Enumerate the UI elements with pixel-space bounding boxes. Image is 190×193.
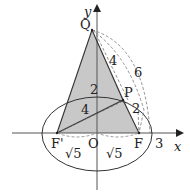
length-radius6-label: 6 (134, 65, 142, 80)
y-axis-arrow-icon (93, 4, 101, 12)
point-q-label: Q (80, 17, 91, 32)
point-fleft (56, 132, 58, 134)
x-axis-label: x (174, 139, 182, 154)
point-q (91, 29, 93, 31)
length-ofleft-label: √5 (65, 146, 82, 161)
length-2-label: 2 (90, 82, 98, 97)
length-ofright-label: √5 (106, 146, 123, 161)
point-fleft-label: F' (51, 136, 64, 151)
origin-label: O (88, 136, 99, 151)
point-p (122, 99, 124, 101)
point-fright-label: F (134, 136, 143, 151)
x-intercept-label: 3 (155, 136, 163, 151)
length-pf-label: 2 (132, 101, 140, 116)
point-fright (138, 132, 140, 134)
length-fleft-p-label: 4 (81, 102, 89, 117)
point-p-label: P (124, 85, 133, 100)
ellipse-cone-diagram: y x Q P F' F O 4 6 2 2 4 √5 √5 3 (0, 0, 190, 193)
x-axis-arrow-icon (176, 129, 184, 137)
diagram-canvas: y x Q P F' F O 4 6 2 2 4 √5 √5 3 (0, 0, 190, 193)
length-qp-label: 4 (109, 53, 117, 68)
